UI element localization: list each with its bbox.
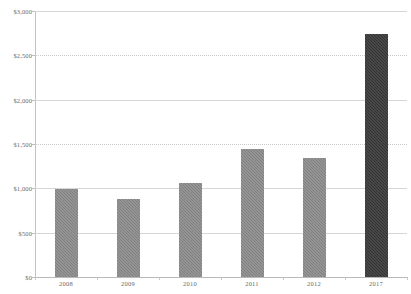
- plot-area: [35, 11, 407, 277]
- y-tick-label-1000: $1,000: [14, 185, 32, 192]
- x-tick-label-2009: 2009: [121, 280, 135, 287]
- y-tick-label-500: $500: [19, 229, 32, 236]
- y-tick-label-0: $0: [25, 274, 32, 281]
- y-tick-label-2500: $2,500: [14, 52, 32, 59]
- bar-2008[interactable]: [55, 189, 78, 277]
- bar-2010[interactable]: [179, 183, 202, 277]
- x-tick-label-2017: 2017: [369, 280, 383, 287]
- bar-chart: $3,000 $2,500 $2,000 $1,500 $1,000 $500 …: [0, 0, 411, 294]
- y-tick-label-1500: $1,500: [14, 141, 32, 148]
- bar-2012[interactable]: [303, 158, 326, 277]
- x-tick-label-2011: 2011: [245, 280, 259, 287]
- x-tick-label-2012: 2012: [307, 280, 321, 287]
- gridline-2000: [35, 100, 407, 101]
- gridline-2500: [35, 55, 407, 56]
- gridline-3000: [35, 11, 407, 12]
- y-axis-labels: $3,000 $2,500 $2,000 $1,500 $1,000 $500 …: [0, 0, 32, 294]
- x-tick-label-2010: 2010: [183, 280, 197, 287]
- bar-2009[interactable]: [117, 199, 140, 277]
- gridline-1000: [35, 188, 407, 189]
- y-tick-label-3000: $3,000: [14, 8, 32, 15]
- x-tick-label-2008: 2008: [59, 280, 73, 287]
- y-tick-label-2000: $2,000: [14, 96, 32, 103]
- bar-2017[interactable]: [365, 34, 388, 277]
- x-axis-labels: 2008 2009 2010 2011 2012 2017: [35, 280, 407, 294]
- bar-2011[interactable]: [241, 149, 264, 277]
- gridline-500: [35, 233, 407, 234]
- x-tick-mark-end: [407, 277, 408, 280]
- gridline-1500: [35, 144, 407, 145]
